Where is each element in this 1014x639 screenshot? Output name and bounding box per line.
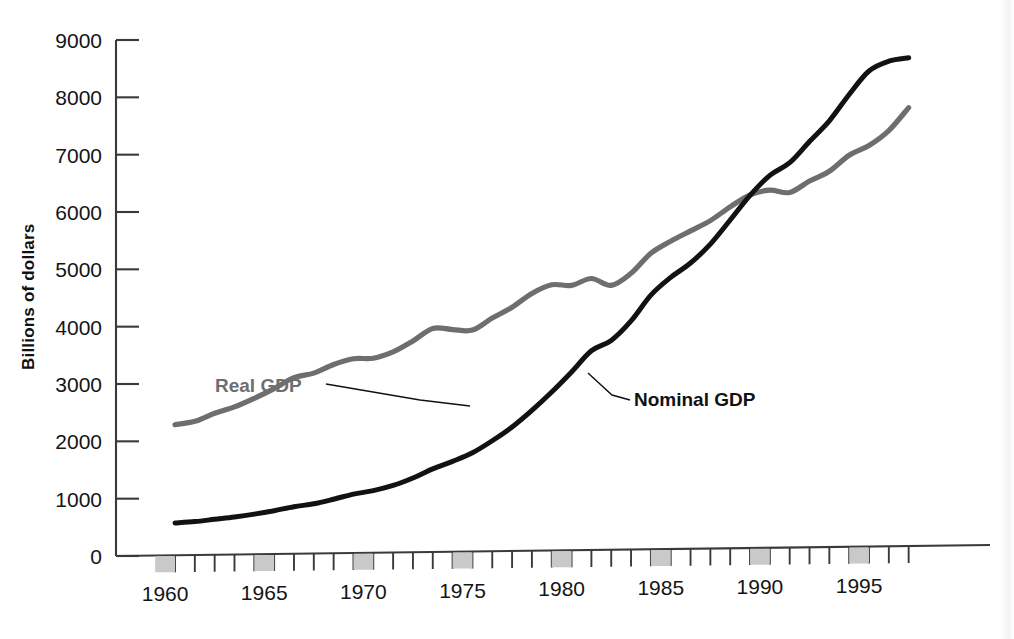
x-axis-tick-labels: 19601965197019751980198519901995	[142, 574, 883, 606]
gdp-line-chart-figure: 0100020003000400050006000700080009000 19…	[0, 0, 1014, 639]
chart-canvas: 0100020003000400050006000700080009000 19…	[0, 0, 1014, 639]
y-axis-title: Billions of dollars	[19, 224, 38, 370]
x-year-marker-1970	[353, 554, 373, 570]
y-tick-label-4000: 4000	[55, 316, 102, 339]
x-tick-label-1960: 1960	[142, 582, 189, 605]
y-axis-group: 0100020003000400050006000700080009000	[55, 29, 139, 568]
x-tick-label-1980: 1980	[538, 577, 585, 600]
y-tick-label-6000: 6000	[55, 201, 102, 224]
real-gdp-leader-line	[326, 384, 470, 406]
x-tick-label-1995: 1995	[836, 574, 883, 597]
x-tick-label-1990: 1990	[737, 575, 784, 598]
x-year-marker-1985	[651, 550, 671, 566]
x-year-marker-1990	[750, 549, 770, 565]
y-tick-label-5000: 5000	[55, 258, 102, 281]
nominal-gdp-leader-line	[588, 373, 630, 400]
x-axis-group: 19601965197019751980198519901995	[116, 545, 990, 605]
x-tick-label-1985: 1985	[637, 576, 684, 599]
y-tick-label-2000: 2000	[55, 430, 102, 453]
y-tick-label-1000: 1000	[55, 488, 102, 511]
real-gdp-label: Real GDP	[215, 375, 302, 396]
nominal-gdp-annotation: Nominal GDP	[588, 373, 756, 410]
y-tick-label-0: 0	[90, 545, 102, 568]
y-tick-label-7000: 7000	[55, 144, 102, 167]
y-axis-tick-labels: 0100020003000400050006000700080009000	[55, 29, 102, 568]
x-tick-label-1970: 1970	[340, 580, 387, 603]
y-tick-label-9000: 9000	[55, 29, 102, 52]
x-year-marker-1995	[849, 548, 869, 564]
x-tick-label-1965: 1965	[241, 581, 288, 604]
x-year-marker-1980	[552, 551, 572, 567]
y-tick-label-8000: 8000	[55, 86, 102, 109]
x-year-marker-1960	[155, 556, 175, 572]
x-year-marker-1975	[453, 553, 473, 569]
y-tick-label-3000: 3000	[55, 373, 102, 396]
y-axis-ticks	[116, 40, 139, 556]
x-year-marker-1965	[254, 555, 274, 571]
x-tick-label-1975: 1975	[439, 579, 486, 602]
nominal-gdp-label: Nominal GDP	[634, 389, 756, 410]
